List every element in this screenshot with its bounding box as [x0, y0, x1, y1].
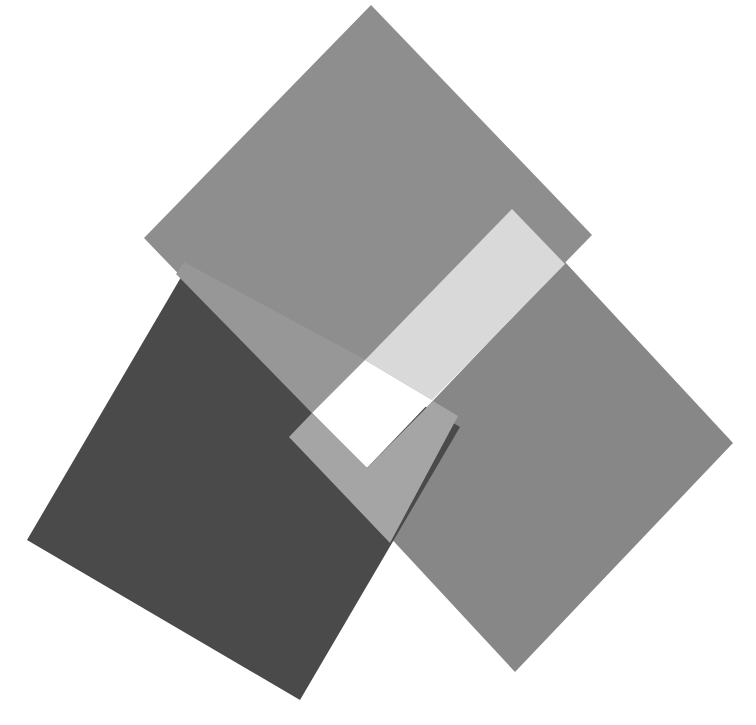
overlapping-squares-figure: [0, 0, 756, 725]
illusion-canvas: [0, 0, 756, 725]
